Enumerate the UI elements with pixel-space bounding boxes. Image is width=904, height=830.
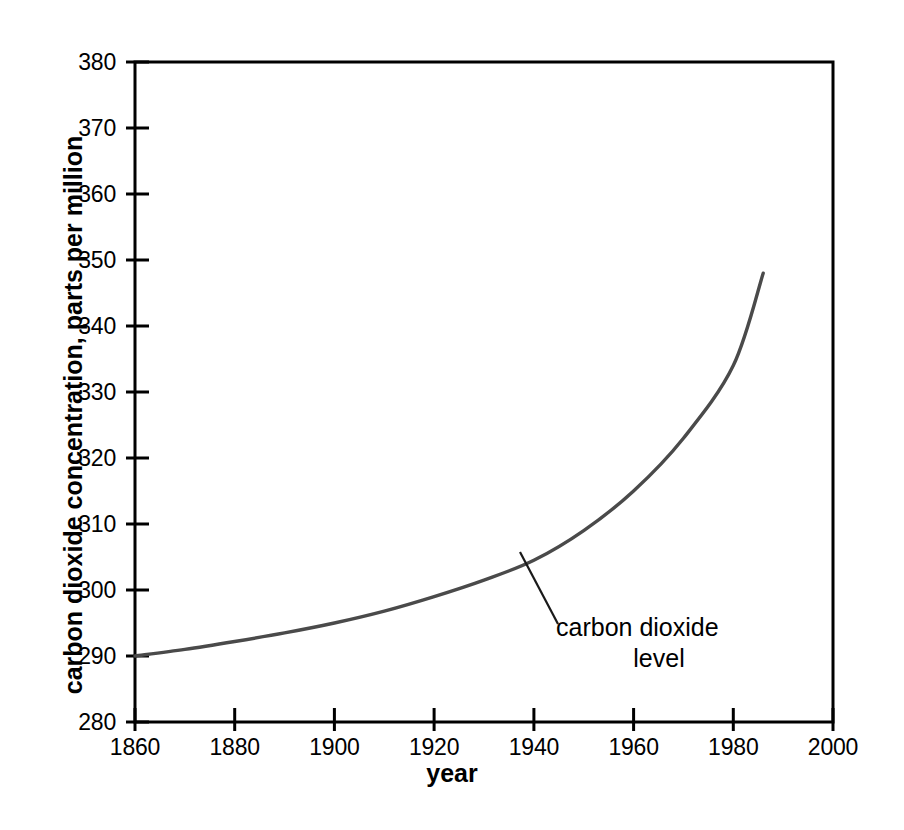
annotation-line-2: level — [556, 643, 788, 674]
plot-canvas — [0, 0, 904, 830]
annotation-line-1: carbon dioxide — [556, 612, 788, 643]
annotation-leader-line — [520, 552, 558, 624]
y-axis-title: carbon dioxide concentration, parts per … — [56, 0, 116, 830]
x-axis-title: year — [0, 761, 904, 786]
co2-level-curve — [135, 273, 763, 656]
x-tick-label-2000: 2000 — [773, 736, 893, 759]
y-axis-title-wrapper: carbon dioxide concentration, parts per … — [56, 0, 116, 830]
co2-chart-figure: 380 370 360 350 340 330 320 310 300 290 … — [0, 0, 904, 830]
x-axis-ticks — [135, 708, 833, 722]
curve-annotation: carbon dioxide level — [556, 612, 788, 674]
y-axis-ticks — [135, 62, 149, 722]
